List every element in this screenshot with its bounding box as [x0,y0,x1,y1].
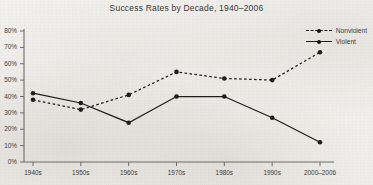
legend-label-violent: Violent [336,36,356,47]
y-tick-label: 50% [0,76,17,83]
x-tick-label: 2000–2006 [290,169,350,176]
legend-item-violent: Violent [306,36,367,47]
data-point-nonviolent [222,76,227,81]
data-point-violent [318,140,323,145]
line-chart: Success Rates by Decade, 1940–2006 Nonvi… [0,0,373,185]
series-line-nonviolent [33,52,320,109]
data-point-violent [174,94,179,99]
legend-item-nonviolent: Nonviolent [306,25,367,36]
y-tick-label: 20% [0,125,17,132]
legend-swatch-nonviolent-icon [306,27,332,34]
data-point-violent [31,91,36,96]
y-tick-label: 30% [0,109,17,116]
y-tick-label: 70% [0,43,17,50]
data-point-violent [79,101,84,106]
legend-label-nonviolent: Nonviolent [336,25,367,36]
data-point-violent [270,116,275,121]
data-point-nonviolent [270,78,275,83]
data-point-nonviolent [174,70,179,75]
data-point-nonviolent [79,107,84,112]
y-tick-label: 40% [0,93,17,100]
y-tick-label: 0% [0,158,17,165]
y-tick-label: 80% [0,27,17,34]
y-tick-label: 60% [0,60,17,67]
data-point-violent [126,120,131,125]
data-point-nonviolent [31,98,36,103]
series-line-violent [33,93,320,142]
data-point-nonviolent [126,93,131,98]
data-point-violent [222,94,227,99]
y-tick-label: 10% [0,142,17,149]
data-point-nonviolent [318,50,323,55]
chart-legend: Nonviolent Violent [306,25,367,47]
legend-swatch-violent-icon [306,38,332,45]
